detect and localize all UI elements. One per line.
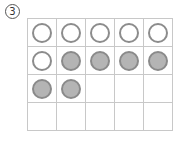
filled-circle-icon [119,51,139,71]
grid-cell [86,19,115,47]
grid-cell [57,103,86,131]
grid-cell [144,47,173,75]
empty-circle-icon [32,23,52,43]
grid-cell [144,103,173,131]
grid-cell [115,103,144,131]
grid-cell [86,103,115,131]
grid-cell [28,103,57,131]
grid-cell [144,75,173,103]
empty-circle-icon [32,51,52,71]
filled-circle-icon [61,79,81,99]
grid-cell [28,19,57,47]
grid-cell [115,47,144,75]
grid-cell [28,47,57,75]
problem-number-badge: 3 [5,4,20,19]
filled-circle-icon [32,79,52,99]
empty-circle-icon [61,23,81,43]
grid-cell [86,75,115,103]
counter-grid [27,18,173,131]
filled-circle-icon [90,51,110,71]
grid-cell [57,47,86,75]
grid-cell [28,75,57,103]
empty-circle-icon [148,23,168,43]
grid-cell [57,19,86,47]
filled-circle-icon [148,51,168,71]
grid-cell [86,47,115,75]
filled-circle-icon [61,51,81,71]
grid-cell [57,75,86,103]
grid-cell [144,19,173,47]
empty-circle-icon [90,23,110,43]
empty-circle-icon [119,23,139,43]
grid-cell [115,19,144,47]
grid-cell [115,75,144,103]
